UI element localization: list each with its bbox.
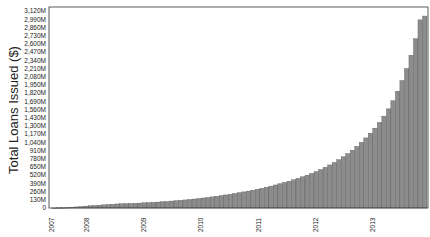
- bar: [169, 201, 174, 208]
- bar: [386, 109, 391, 208]
- bar: [97, 205, 102, 208]
- bar: [102, 205, 107, 208]
- bar: [215, 196, 220, 208]
- bar: [188, 199, 193, 208]
- y-tick-label: 650M: [30, 163, 46, 170]
- bar: [206, 197, 211, 208]
- bar: [291, 180, 296, 208]
- bar: [346, 154, 351, 208]
- bar: [337, 160, 342, 208]
- bar: [260, 188, 265, 208]
- y-tick-label: 1,820M: [24, 89, 46, 96]
- x-tick-label: 2013: [369, 217, 376, 232]
- bar: [350, 150, 355, 208]
- bar: [377, 122, 382, 208]
- y-axis-label: Total Loans Issued ($): [6, 46, 21, 174]
- y-tick-label: 2,990M: [24, 16, 46, 23]
- y-tick-label: 2,860M: [24, 24, 46, 31]
- x-tick-label: 2007: [48, 217, 55, 232]
- bar: [359, 142, 364, 208]
- bar: [179, 200, 184, 208]
- bar: [409, 55, 414, 208]
- bar: [124, 204, 129, 208]
- bar: [120, 204, 125, 208]
- bar: [129, 203, 134, 208]
- bar: [278, 184, 283, 208]
- bar: [160, 202, 165, 208]
- bar: [310, 173, 315, 208]
- bar: [142, 203, 147, 208]
- bar: [282, 182, 287, 208]
- bar: [418, 20, 423, 208]
- loans-bar-chart: Total Loans Issued ($) 0130M260M390M520M…: [0, 0, 430, 237]
- bar: [147, 203, 152, 208]
- y-tick-label: 1,040M: [24, 139, 46, 146]
- bar: [233, 193, 238, 208]
- bar: [305, 175, 310, 208]
- y-tick-label: 1,300M: [24, 122, 46, 129]
- bar: [413, 39, 418, 208]
- bar: [151, 202, 156, 208]
- bar: [395, 91, 400, 208]
- y-tick-label: 1,950M: [24, 81, 46, 88]
- x-axis-ticks: 2007200820092010201120122013: [48, 217, 376, 232]
- bar: [201, 198, 206, 208]
- y-tick-label: 3,120M: [24, 7, 46, 14]
- bar: [296, 178, 301, 208]
- bar: [341, 157, 346, 208]
- bar: [328, 165, 333, 208]
- y-tick-label: 1,170M: [24, 130, 46, 137]
- bar: [300, 177, 305, 208]
- bar: [319, 169, 324, 208]
- x-tick-label: 2011: [255, 218, 262, 232]
- y-tick-label: 1,690M: [24, 98, 46, 105]
- bar: [264, 187, 269, 208]
- bar: [138, 203, 143, 208]
- bar: [422, 16, 427, 208]
- y-axis-ticks: 0130M260M390M520M650M780M910M1,040M1,170…: [24, 7, 46, 211]
- x-tick-label: 2009: [140, 217, 147, 232]
- bar: [404, 68, 409, 208]
- bar: [382, 116, 387, 208]
- y-tick-label: 910M: [30, 147, 46, 154]
- x-tick-label: 2010: [197, 217, 204, 232]
- bar: [115, 204, 120, 208]
- bar: [210, 197, 215, 208]
- y-tick-label: 260M: [30, 188, 46, 195]
- bar: [255, 189, 260, 208]
- bar: [246, 191, 251, 208]
- y-tick-label: 520M: [30, 171, 46, 178]
- y-tick-label: 2,730M: [24, 32, 46, 39]
- bar: [314, 172, 319, 209]
- y-tick-label: 390M: [30, 180, 46, 187]
- y-tick-label: 2,470M: [24, 48, 46, 55]
- bar: [197, 199, 202, 208]
- bar: [355, 146, 360, 208]
- bar: [269, 186, 274, 208]
- y-tick-label: 130M: [30, 196, 46, 203]
- x-tick-label: 2012: [312, 217, 319, 232]
- bar: [364, 138, 369, 208]
- bar: [219, 196, 224, 208]
- y-tick-label: 2,080M: [24, 73, 46, 80]
- y-tick-label: 780M: [30, 155, 46, 162]
- bar: [156, 202, 161, 208]
- bar: [165, 201, 170, 208]
- bar: [237, 193, 242, 208]
- bar: [373, 128, 378, 208]
- bar: [228, 194, 233, 208]
- bar: [106, 205, 111, 208]
- bar: [133, 203, 138, 208]
- bar: [242, 192, 247, 208]
- bar: [224, 195, 229, 208]
- y-tick-label: 2,210M: [24, 65, 46, 72]
- bars: [52, 16, 427, 208]
- y-tick-label: 0: [42, 204, 46, 211]
- bar: [287, 181, 292, 208]
- bar: [251, 190, 256, 208]
- y-tick-label: 2,340M: [24, 57, 46, 64]
- bar: [273, 185, 278, 208]
- bar: [332, 162, 337, 208]
- bar: [174, 201, 179, 208]
- bar: [183, 200, 188, 208]
